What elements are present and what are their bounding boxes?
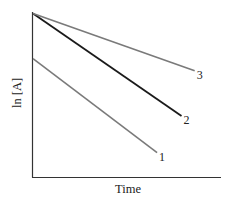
series-2-line [33, 13, 182, 116]
x-axis-label: Time [115, 182, 141, 196]
y-axis-label: ln [A] [10, 78, 24, 108]
series-3-label: 3 [197, 68, 203, 82]
series-1-line [33, 59, 157, 153]
chart: 1 2 3 Time ln [A] [0, 0, 227, 198]
series-3-line [33, 13, 195, 70]
series-1-label: 1 [159, 150, 165, 164]
series-2-label: 2 [184, 113, 190, 127]
